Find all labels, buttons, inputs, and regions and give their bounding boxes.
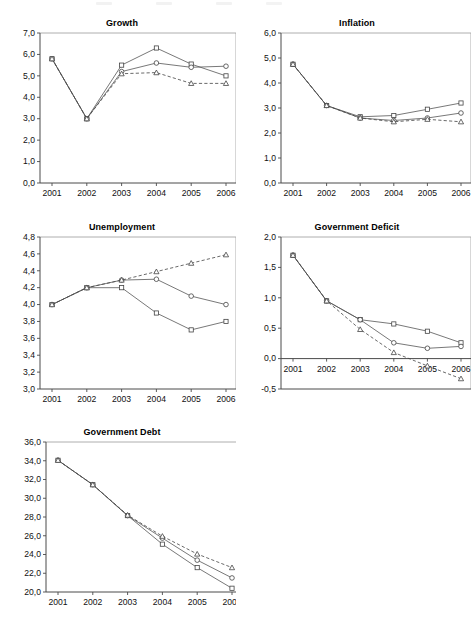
chart-panel-growth: Growth0,01,02,03,04,05,06,07,02001200220…	[8, 18, 236, 213]
y-axis-tick-label: 5,0	[264, 53, 276, 63]
data-point-square	[459, 101, 463, 105]
series-line-circle-series	[293, 64, 461, 120]
y-axis-tick-label: -0,5	[261, 384, 276, 394]
y-axis-tick-label: 26,0	[24, 531, 41, 541]
y-axis-tick-label: 4,2	[23, 282, 35, 292]
y-axis-tick-label: 4,8	[23, 233, 35, 242]
chart-panel-government-debt: Government Debt20,022,024,026,028,030,03…	[8, 427, 236, 622]
y-axis-tick-label: 36,0	[24, 438, 41, 447]
x-axis-tick-label: 2005	[182, 188, 201, 198]
x-axis-tick-label: 2004	[384, 364, 403, 374]
x-axis-tick-label: 2003	[112, 188, 131, 198]
x-axis-tick-label: 2002	[317, 364, 336, 374]
data-point-circle	[224, 302, 229, 307]
data-point-circle	[189, 294, 194, 299]
chart-title: Inflation	[243, 18, 471, 29]
data-point-square	[154, 46, 158, 50]
y-axis-tick-label: 3,0	[23, 113, 35, 123]
x-axis-tick-label: 2006	[216, 188, 235, 198]
data-point-circle	[154, 61, 159, 66]
y-axis-tick-label: 0,0	[264, 178, 276, 188]
x-axis-tick-label: 2001	[283, 188, 302, 198]
y-axis-tick-label: 1,0	[23, 156, 35, 166]
y-axis-tick-label: 3,4	[23, 350, 35, 360]
data-point-circle	[425, 346, 430, 351]
plot-area: 0,01,02,03,04,05,06,02001200220032004200…	[243, 29, 471, 213]
x-axis-tick-label: 2002	[83, 597, 102, 607]
data-point-triangle	[391, 350, 396, 355]
x-axis-tick-label: 2005	[182, 394, 201, 404]
data-point-square	[120, 63, 124, 67]
series-line-circle-series	[52, 59, 226, 119]
y-axis-tick-label: 22,0	[24, 568, 41, 578]
chart-panel-government-deficit: Government Deficit-0,50,00,51,01,52,0200…	[243, 222, 471, 419]
chart-panel-inflation: Inflation0,01,02,03,04,05,06,02001200220…	[243, 18, 471, 213]
x-axis-tick-label: 2002	[77, 188, 96, 198]
data-point-square	[120, 286, 124, 290]
y-axis-tick-label: 3,0	[23, 384, 35, 394]
plot-area: 20,022,024,026,028,030,032,034,036,02001…	[8, 438, 236, 622]
y-axis-tick-label: 4,6	[23, 249, 35, 259]
data-point-square	[224, 319, 228, 323]
x-axis-tick-label: 2004	[384, 188, 403, 198]
data-point-square	[189, 328, 193, 332]
x-axis-tick-label: 2004	[147, 188, 166, 198]
x-axis-tick-label: 2003	[112, 394, 131, 404]
y-axis-tick-label: 1,5	[264, 262, 276, 272]
y-axis-tick-label: 2,0	[264, 128, 276, 138]
y-axis-tick-label: 24,0	[24, 549, 41, 559]
x-axis-tick-label: 2002	[317, 188, 336, 198]
x-axis-tick-label: 2006	[216, 394, 235, 404]
data-point-circle	[230, 576, 235, 581]
data-point-triangle	[458, 119, 463, 124]
data-point-circle	[459, 111, 464, 116]
y-axis-tick-label: 6,0	[264, 29, 276, 38]
x-axis-tick-label: 2003	[351, 188, 370, 198]
y-axis-tick-label: 1,0	[264, 153, 276, 163]
x-axis-tick-label: 2001	[42, 394, 61, 404]
x-axis-tick-label: 2006	[222, 597, 236, 607]
data-point-circle	[358, 317, 363, 322]
chart-title: Unemployment	[8, 222, 236, 233]
series-line-square-series	[293, 255, 461, 343]
data-point-circle	[392, 340, 397, 345]
x-axis-tick-label: 2004	[153, 597, 172, 607]
data-point-triangle	[223, 81, 228, 86]
data-point-triangle	[154, 269, 159, 274]
x-axis-tick-label: 2001	[283, 364, 302, 374]
series-line-triangle-series	[58, 460, 232, 567]
data-point-triangle	[195, 551, 200, 556]
y-axis-tick-label: 28,0	[24, 512, 41, 522]
plot-area: -0,50,00,51,01,52,0200120022003200420052…	[243, 233, 471, 419]
y-axis-tick-label: 6,0	[23, 49, 35, 59]
data-point-square	[224, 74, 228, 78]
y-axis-tick-label: 3,0	[264, 103, 276, 113]
y-axis-tick-label: 3,2	[23, 367, 35, 377]
chart-title: Government Deficit	[243, 222, 471, 233]
x-axis-tick-label: 2006	[451, 188, 470, 198]
y-axis-tick-label: 34,0	[24, 456, 41, 466]
y-axis-tick-label: 0,0	[23, 178, 35, 188]
y-axis-tick-label: 1,0	[264, 293, 276, 303]
series-line-square-series	[58, 460, 232, 588]
series-line-square-series	[52, 288, 226, 330]
data-point-circle	[224, 64, 229, 69]
data-point-circle	[195, 558, 200, 563]
y-axis-tick-label: 7,0	[23, 29, 35, 38]
series-line-square-series	[293, 64, 461, 117]
x-axis-tick-label: 2003	[351, 364, 370, 374]
y-axis-tick-label: 3,8	[23, 316, 35, 326]
data-point-circle	[189, 65, 194, 70]
y-axis-tick-label: 5,0	[23, 71, 35, 81]
y-axis-tick-label: 0,5	[264, 323, 276, 333]
data-point-square	[160, 542, 164, 546]
y-axis-tick-label: 0,0	[264, 353, 276, 363]
data-point-square	[230, 586, 234, 590]
y-axis-tick-label: 4,0	[23, 299, 35, 309]
data-point-triangle	[229, 565, 234, 570]
series-line-triangle-series	[293, 64, 461, 122]
y-axis-tick-label: 30,0	[24, 493, 41, 503]
data-point-circle	[154, 277, 159, 282]
chart-title: Growth	[8, 18, 236, 29]
data-point-square	[392, 113, 396, 117]
